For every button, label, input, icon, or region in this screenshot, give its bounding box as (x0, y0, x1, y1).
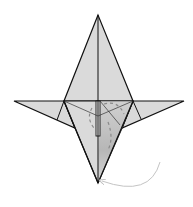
top-point (64, 15, 133, 101)
origami-diagram (0, 0, 193, 207)
fold-arrow (102, 162, 160, 186)
bottom-point (64, 101, 133, 183)
